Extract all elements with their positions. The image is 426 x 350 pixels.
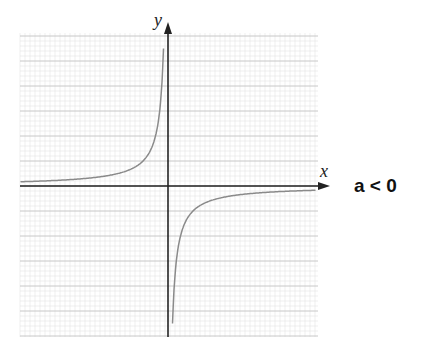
x-axis-arrow-icon (318, 182, 330, 190)
curve-branch-right (173, 190, 316, 323)
grid (20, 33, 318, 337)
y-axis-label: y (152, 10, 162, 30)
condition-label: a < 0 (354, 175, 397, 197)
x-axis-label: x (319, 161, 328, 181)
y-axis-arrow-icon (164, 22, 172, 34)
curve-branch-left (21, 49, 164, 182)
